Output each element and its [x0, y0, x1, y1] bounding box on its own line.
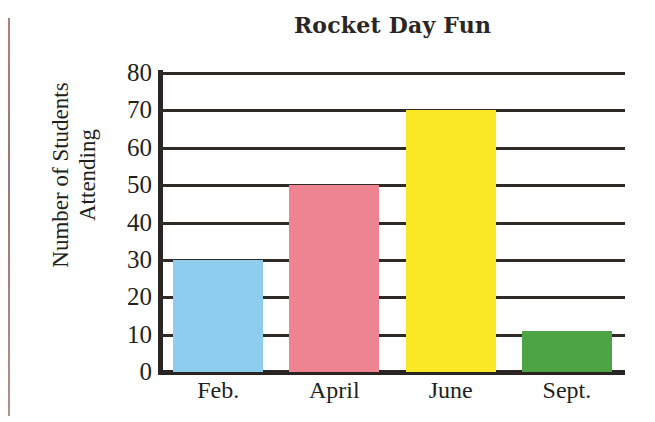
y-tick-label-80: 80 [104, 60, 152, 85]
gridline-50 [160, 184, 625, 187]
gridline-40 [160, 222, 625, 225]
bar-sept [522, 331, 612, 372]
x-axis-tick-labels: Feb.AprilJuneSept. [160, 378, 625, 418]
y-tick-label-0: 0 [104, 359, 152, 384]
gridline-80 [160, 72, 625, 75]
y-axis-title-line-1: Number of Students [48, 82, 74, 267]
y-tick-label-50: 50 [104, 172, 152, 197]
y-tick-label-70: 70 [104, 97, 152, 122]
y-axis-title: Number of Students Attending [44, 25, 104, 325]
y-axis-title-line-2: Attending [75, 129, 101, 221]
y-tick-label-30: 30 [104, 247, 152, 272]
y-axis-tick-labels: 80706050403020100 [100, 0, 152, 422]
y-tick-label-40: 40 [104, 210, 152, 235]
gridline-60 [160, 147, 625, 150]
x-tick-label-sept: Sept. [509, 378, 625, 403]
y-tick-label-20: 20 [104, 284, 152, 309]
x-tick-label-june: June [393, 378, 509, 403]
plot-area [160, 73, 625, 372]
chart-title: Rocket Day Fun [160, 12, 625, 38]
x-tick-label-april: April [276, 378, 392, 403]
x-tick-label-feb: Feb. [160, 378, 276, 403]
bar-june [406, 110, 496, 372]
bar-april [289, 185, 379, 372]
gridline-70 [160, 109, 625, 112]
y-tick-label-60: 60 [104, 135, 152, 160]
bar-feb [173, 260, 263, 372]
y-tick-label-10: 10 [104, 322, 152, 347]
page-margin-rule [8, 18, 10, 416]
